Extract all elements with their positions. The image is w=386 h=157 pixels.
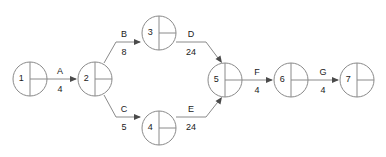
activity-network-diagram: 1234567 A4B8C5D24E24F4G4 [0, 0, 386, 157]
edge-weight-A: 4 [57, 84, 62, 94]
edge-name-A: A [57, 66, 63, 76]
edge-label-group-G: G4 [319, 67, 326, 95]
node-label-3: 3 [148, 27, 153, 37]
node-label-5: 5 [214, 74, 219, 84]
edge-G [308, 77, 339, 83]
edge-arrowhead-A [70, 76, 77, 82]
node-7[interactable]: 7 [340, 63, 374, 97]
edge-weight-E: 24 [186, 122, 196, 132]
edge-weight-D: 24 [186, 47, 196, 57]
node-label-1: 1 [19, 73, 24, 83]
node-3[interactable]: 3 [142, 16, 176, 50]
edge-name-D: D [188, 29, 195, 39]
edge-line-E [176, 98, 221, 117]
edge-name-B: B [121, 29, 127, 39]
edge-arrowhead-B [134, 39, 141, 45]
network-diagram-canvas: 1234567 A4B8C5D24E24F4G4 [0, 0, 386, 157]
edge-label-group-F: F4 [254, 67, 260, 95]
edge-line-D [176, 42, 221, 62]
edge-label-group-B: B8 [121, 29, 127, 57]
edge-D [176, 42, 224, 65]
edge-label-group-A: A4 [57, 66, 63, 94]
edge-label-group-C: C5 [121, 104, 128, 132]
node-4[interactable]: 4 [142, 111, 176, 145]
node-label-7: 7 [346, 74, 351, 84]
node-5[interactable]: 5 [208, 63, 242, 97]
node-6[interactable]: 6 [274, 63, 308, 97]
edge-label-group-E: E24 [186, 104, 196, 132]
edge-arrowhead-C [134, 114, 141, 120]
edge-weight-G: 4 [320, 85, 325, 95]
edge-weight-B: 8 [121, 47, 126, 57]
edge-F [242, 77, 273, 83]
edge-name-G: G [319, 67, 326, 77]
edge-name-C: C [121, 104, 128, 114]
node-label-2: 2 [84, 73, 89, 83]
edge-E [176, 95, 224, 117]
node-label-6: 6 [280, 74, 285, 84]
node-label-4: 4 [148, 122, 153, 132]
edge-arrowhead-F [266, 77, 273, 83]
edge-weight-F: 4 [254, 85, 259, 95]
edge-A [47, 76, 77, 82]
node-2[interactable]: 2 [78, 62, 112, 96]
edge-name-E: E [188, 104, 194, 114]
edge-label-group-D: D24 [186, 29, 196, 57]
edge-name-F: F [254, 67, 260, 77]
edge-weight-C: 5 [121, 122, 126, 132]
edge-arrowhead-G [332, 77, 339, 83]
node-1[interactable]: 1 [13, 62, 47, 96]
